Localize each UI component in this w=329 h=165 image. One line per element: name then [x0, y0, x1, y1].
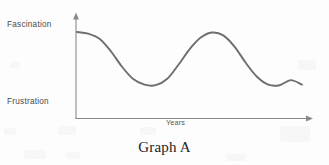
x-axis-label-years: Years	[166, 119, 185, 126]
y-axis-label-fascination: Fascination	[7, 21, 52, 29]
y-axis-arrowhead-icon	[73, 13, 79, 20]
y-axis-label-frustration: Frustration	[7, 98, 49, 106]
data-series-line	[77, 32, 302, 86]
figure-page: Fascination Frustration Years Graph A	[0, 0, 329, 165]
chart-figure: Fascination Frustration Years	[0, 0, 329, 138]
x-axis-arrowhead-icon	[306, 116, 313, 122]
figure-caption: Graph A	[0, 138, 329, 157]
x-axis	[76, 116, 314, 122]
y-axis	[73, 13, 79, 119]
